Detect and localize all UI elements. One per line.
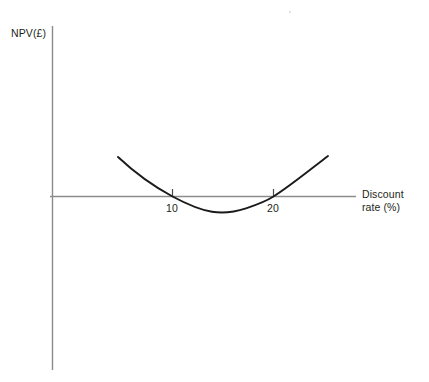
- scan-artifact-speck: [289, 11, 291, 13]
- x-tick-label-20: 20: [258, 202, 288, 214]
- x-axis-title-line-2: rate (%): [362, 201, 400, 213]
- x-tick-label-10: 10: [157, 202, 187, 214]
- x-axis-title: Discountrate (%): [362, 188, 404, 214]
- y-axis-title: NPV(£): [11, 27, 46, 40]
- npv-curve: [118, 156, 328, 213]
- npv-discount-rate-chart: NPV(£) Discountrate (%) 10 20: [0, 0, 429, 382]
- x-axis-title-line-1: Discount: [362, 188, 404, 200]
